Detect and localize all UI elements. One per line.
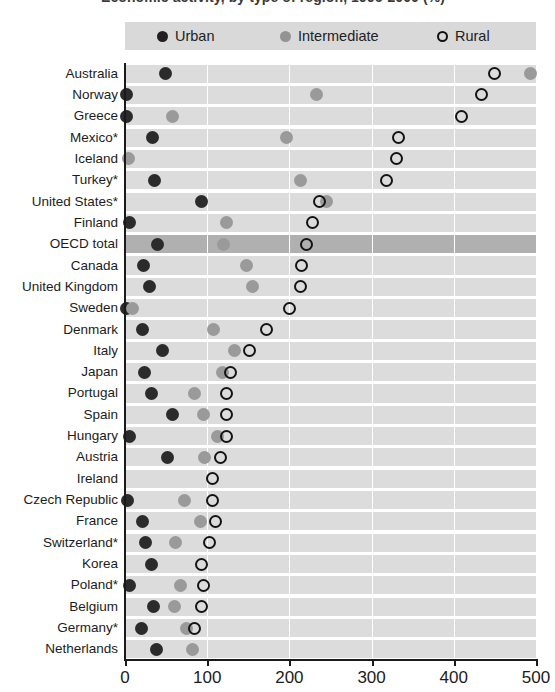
y-axis-label: Canada <box>0 259 118 273</box>
y-axis-label: Poland* <box>0 578 118 592</box>
y-axis-label: Portugal <box>0 386 118 400</box>
urban-marker-icon <box>157 31 168 42</box>
x-axis-tick-label: 100 <box>177 668 237 688</box>
y-axis-label: Belgium <box>0 600 118 614</box>
x-axis-tick <box>372 659 374 666</box>
x-axis-tick-label: 400 <box>424 668 484 688</box>
y-axis-label: Australia <box>0 67 118 81</box>
legend-label-urban: Urban <box>175 29 215 44</box>
chart-title: Economic activity, by type of region, 19… <box>0 0 546 5</box>
y-axis-label: Finland <box>0 216 118 230</box>
y-axis-label: Hungary <box>0 429 118 443</box>
y-axis-label: Italy <box>0 344 118 358</box>
y-axis-label: Sweden <box>0 301 118 315</box>
x-axis-tick-label: 200 <box>259 668 319 688</box>
y-axis-label: Ireland <box>0 472 118 486</box>
y-axis-label: Switzerland* <box>0 536 118 550</box>
x-axis-tick-label: 500 <box>506 668 555 688</box>
y-axis-label: Netherlands <box>0 642 118 656</box>
y-axis-label: United Kingdom <box>0 280 118 294</box>
y-axis-label: Korea <box>0 557 118 571</box>
x-axis-tick <box>207 659 209 666</box>
y-axis-label: United States* <box>0 195 118 209</box>
legend-item-urban: Urban <box>157 22 215 50</box>
legend-item-rural: Rural <box>437 22 490 50</box>
intermediate-marker-icon <box>280 31 291 42</box>
y-axis-line <box>124 63 126 660</box>
x-axis-tick <box>536 659 538 666</box>
y-axis-label: Greece <box>0 109 118 123</box>
y-axis-label: Denmark <box>0 323 118 337</box>
x-axis-tick <box>289 659 291 666</box>
rural-marker-icon <box>437 31 448 42</box>
y-axis-label: Japan <box>0 365 118 379</box>
legend-item-intermediate: Intermediate <box>280 22 379 50</box>
y-axis-label: Norway <box>0 88 118 102</box>
y-axis-label: Austria <box>0 450 118 464</box>
y-axis-labels: AustraliaNorwayGreeceMexico*IcelandTurke… <box>0 63 546 660</box>
legend-label-rural: Rural <box>455 29 490 44</box>
y-axis-label: Mexico* <box>0 131 118 145</box>
y-axis-label: Iceland <box>0 152 118 166</box>
y-axis-label: Turkey* <box>0 173 118 187</box>
x-axis-tick-label: 300 <box>342 668 402 688</box>
legend-label-intermediate: Intermediate <box>298 29 379 44</box>
x-axis-tick-label: 0 <box>95 668 155 688</box>
y-axis-label: OECD total <box>0 237 118 251</box>
y-axis-label: Czech Republic <box>0 493 118 507</box>
chart-legend: Urban Intermediate Rural <box>125 22 536 50</box>
x-axis-line <box>124 659 537 661</box>
x-axis-tick <box>454 659 456 666</box>
chart-title-cropped: Economic activity, by type of region, 19… <box>0 0 546 14</box>
y-axis-label: Germany* <box>0 621 118 635</box>
x-axis-tick <box>125 659 127 666</box>
y-axis-label: France <box>0 514 118 528</box>
y-axis-label: Spain <box>0 408 118 422</box>
